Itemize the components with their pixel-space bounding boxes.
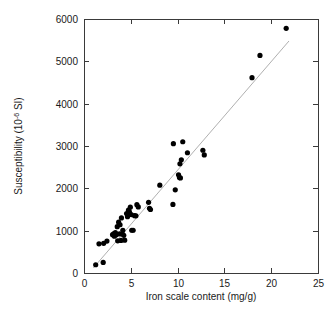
- data-point: [96, 241, 101, 246]
- data-point: [249, 75, 254, 80]
- x-tick-label: 0: [82, 278, 88, 289]
- x-axis-title: Iron scale content (mg/g): [146, 291, 257, 302]
- data-point: [133, 213, 138, 218]
- y-axis-tick-labels: 0100020003000400050006000: [56, 14, 79, 279]
- data-point: [284, 26, 289, 31]
- data-point: [136, 204, 141, 209]
- y-tick-label: 2000: [56, 183, 79, 194]
- y-tick-label: 0: [72, 268, 78, 279]
- data-point: [120, 228, 125, 233]
- y-tick-label: 4000: [56, 99, 79, 110]
- x-tick-label: 10: [173, 278, 185, 289]
- data-point: [185, 150, 190, 155]
- data-point: [93, 262, 98, 267]
- data-point: [179, 157, 184, 162]
- data-point: [171, 141, 176, 146]
- data-point: [202, 152, 207, 157]
- y-tick-label: 6000: [56, 14, 79, 25]
- x-tick-label: 25: [313, 278, 325, 289]
- y-tick-label: 1000: [56, 226, 79, 237]
- y-axis-title: Susceptibility (10-6 SI): [13, 97, 24, 194]
- svg-text:Susceptibility (10-6 SI): Susceptibility (10-6 SI): [13, 97, 24, 194]
- y-tick-label: 3000: [56, 141, 79, 152]
- data-point: [131, 228, 136, 233]
- data-point: [173, 187, 178, 192]
- data-point: [170, 202, 175, 207]
- data-point: [119, 215, 124, 220]
- chart-canvas: 0510152025 0100020003000400050006000 Iro…: [0, 0, 335, 322]
- data-point: [121, 233, 126, 238]
- y-tick-label: 5000: [56, 56, 79, 67]
- data-point: [180, 139, 185, 144]
- data-point: [122, 238, 127, 243]
- y-axis-title-suffix: SI): [13, 97, 24, 113]
- data-point: [176, 172, 181, 177]
- data-point: [200, 148, 205, 153]
- x-tick-label: 20: [266, 278, 278, 289]
- data-point: [128, 205, 133, 210]
- data-points-group: [93, 26, 289, 268]
- x-axis-tick-labels: 0510152025: [82, 278, 325, 289]
- data-point: [104, 238, 109, 243]
- scatter-plot-figure: 0510152025 0100020003000400050006000 Iro…: [0, 0, 335, 322]
- data-point: [257, 53, 262, 58]
- data-point: [146, 200, 151, 205]
- data-point: [117, 222, 122, 227]
- data-point: [157, 183, 162, 188]
- data-point: [101, 260, 106, 265]
- x-tick-label: 5: [129, 278, 135, 289]
- data-point: [148, 207, 153, 212]
- y-axis-title-prefix: Susceptibility (10: [13, 119, 24, 195]
- x-tick-label: 15: [219, 278, 231, 289]
